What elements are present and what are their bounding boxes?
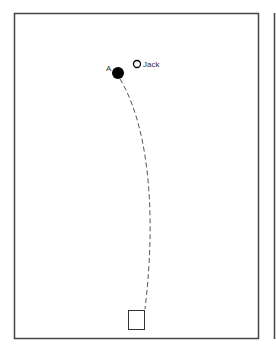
bowl-path — [120, 79, 150, 309]
ball-a-label: A — [106, 64, 112, 73]
jack-label: Jack — [143, 60, 160, 69]
diagram-canvas: A Jack — [0, 0, 276, 349]
jack — [134, 61, 141, 68]
mat — [129, 311, 145, 330]
ball-a — [112, 67, 124, 79]
